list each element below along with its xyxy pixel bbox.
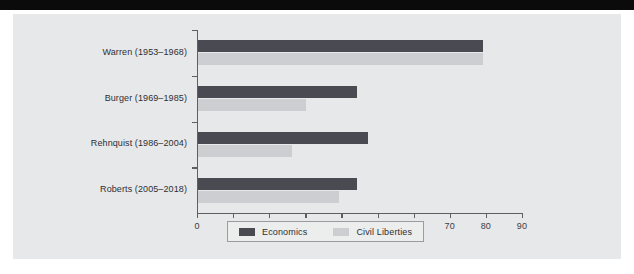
bar-civil-liberties bbox=[198, 99, 306, 111]
plot-area: 0102030405060708090 Warren (1953–1968)Bu… bbox=[197, 30, 537, 213]
legend-item-civil-liberties: Civil Liberties bbox=[333, 227, 412, 237]
category-label: Rehnquist (1986–2004) bbox=[37, 138, 187, 148]
category-label-text: Burger (1969–1985) bbox=[37, 93, 187, 103]
x-axis-tick-label: 90 bbox=[517, 221, 527, 231]
x-axis-tick bbox=[233, 213, 234, 218]
y-axis-tick bbox=[192, 122, 197, 123]
category-label-text: Rehnquist (1986–2004) bbox=[37, 138, 187, 148]
bar-economics bbox=[198, 40, 483, 52]
page-top-black-band bbox=[0, 0, 634, 10]
figure-panel: 0102030405060708090 Warren (1953–1968)Bu… bbox=[13, 14, 621, 259]
bar-economics bbox=[198, 86, 357, 98]
x-axis-tick bbox=[378, 213, 379, 218]
x-axis-tick bbox=[305, 213, 306, 218]
bar-civil-liberties bbox=[198, 191, 339, 203]
x-axis-tick-label: 80 bbox=[481, 221, 491, 231]
bar-economics bbox=[198, 178, 357, 190]
y-axis-tick bbox=[192, 167, 197, 168]
legend-swatch-economics bbox=[239, 228, 255, 236]
category-label: Warren (1953–1968) bbox=[37, 47, 187, 57]
category-label: Roberts (2005–2018) bbox=[37, 184, 187, 194]
bar-civil-liberties bbox=[198, 145, 292, 157]
x-axis-tick bbox=[414, 213, 415, 218]
legend-item-economics: Economics bbox=[239, 227, 307, 237]
bar-economics bbox=[198, 132, 368, 144]
chart-legend: Economics Civil Liberties bbox=[227, 221, 424, 242]
x-axis-tick bbox=[197, 213, 198, 218]
chart-page: 0102030405060708090 Warren (1953–1968)Bu… bbox=[0, 0, 634, 274]
x-axis-tick-label: 0 bbox=[194, 221, 199, 231]
category-label-text: Roberts (2005–2018) bbox=[37, 184, 187, 194]
y-axis-tick bbox=[192, 30, 197, 31]
x-axis-tick-label: 70 bbox=[445, 221, 455, 231]
category-label: Burger (1969–1985) bbox=[37, 93, 187, 103]
legend-label-economics: Economics bbox=[262, 227, 307, 237]
x-axis-tick bbox=[341, 213, 342, 218]
x-axis-tick bbox=[269, 213, 270, 218]
y-axis-tick bbox=[192, 76, 197, 77]
legend-swatch-civil-liberties bbox=[333, 228, 349, 236]
bar-civil-liberties bbox=[198, 53, 483, 65]
x-axis-tick bbox=[486, 213, 487, 218]
legend-label-civil-liberties: Civil Liberties bbox=[356, 227, 412, 237]
category-label-text: Warren (1953–1968) bbox=[37, 47, 187, 57]
x-axis-line bbox=[197, 213, 522, 214]
x-axis-tick bbox=[522, 213, 523, 218]
x-axis-tick bbox=[450, 213, 451, 218]
